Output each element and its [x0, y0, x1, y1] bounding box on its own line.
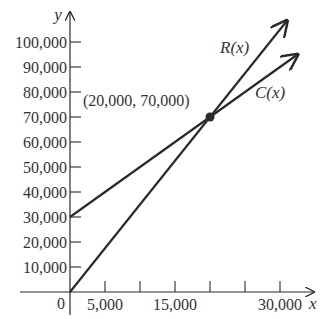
- intersection-label: (20,000, 70,000): [83, 92, 190, 110]
- x-tick-label: 30,000: [258, 296, 302, 313]
- series-lines: [70, 21, 298, 292]
- y-tick-label: 60,000: [23, 134, 67, 151]
- series-line-cx: [70, 55, 298, 218]
- y-tick-label: 70,000: [23, 109, 67, 126]
- y-tick-label: 80,000: [23, 84, 67, 101]
- origin-label: 0: [57, 295, 65, 312]
- y-axis-ticks: 10,00020,00030,00040,00050,00060,00070,0…: [15, 34, 81, 276]
- series-line-rx: [70, 21, 287, 292]
- x-axis-label: x: [308, 294, 317, 313]
- intersection-point: [206, 113, 215, 122]
- y-tick-label: 30,000: [23, 209, 67, 226]
- y-tick-label: 90,000: [23, 59, 67, 76]
- break-even-chart: 10,00020,00030,00040,00050,00060,00070,0…: [0, 0, 320, 319]
- x-tick-label: 5,000: [87, 296, 123, 313]
- series-label-c: C(x): [255, 83, 286, 102]
- labels: yx0R(x)C(x)(20,000, 70,000): [52, 5, 317, 313]
- y-tick-label: 10,000: [23, 259, 67, 276]
- x-axis-ticks: 5,00015,00030,000: [87, 281, 302, 313]
- y-tick-label: 50,000: [23, 159, 67, 176]
- y-axis-label: y: [52, 5, 62, 24]
- y-tick-label: 20,000: [23, 234, 67, 251]
- x-tick-label: 15,000: [153, 296, 197, 313]
- y-tick-label: 40,000: [23, 184, 67, 201]
- y-tick-label: 100,000: [15, 34, 67, 51]
- series-label-r: R(x): [219, 38, 250, 57]
